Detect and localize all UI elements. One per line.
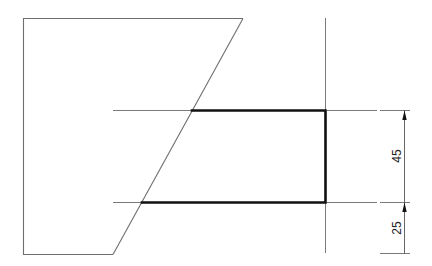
- section-outline: [142, 111, 326, 203]
- arrowhead-middle-icon: [402, 203, 406, 213]
- drawing-canvas: 45 25: [0, 0, 432, 266]
- arrowhead-top-icon: [402, 111, 406, 121]
- trapezoid-outline: [24, 19, 244, 255]
- dimension-label-25: 25: [390, 221, 404, 235]
- dimension-label-45: 45: [390, 149, 404, 163]
